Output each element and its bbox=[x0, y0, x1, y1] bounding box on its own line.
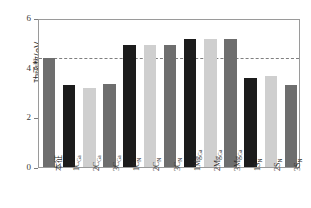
bar bbox=[184, 39, 196, 167]
bar bbox=[144, 45, 156, 167]
bar bbox=[204, 39, 216, 167]
bar bbox=[103, 84, 115, 167]
bar bbox=[244, 78, 256, 167]
bar bbox=[43, 58, 55, 167]
y-tick-label: 4 bbox=[27, 63, 32, 74]
y-tick: 4 bbox=[0, 69, 38, 70]
y-tick-label: 2 bbox=[27, 112, 32, 123]
y-tick-label: 0 bbox=[27, 162, 32, 173]
bar bbox=[63, 85, 75, 167]
bar bbox=[83, 88, 95, 167]
bar bbox=[164, 45, 176, 167]
bar bbox=[265, 76, 277, 167]
y-tick-label: 6 bbox=[27, 13, 32, 24]
chart-figure: 功函数/eV 0246 本征1CGa2CGa3CGa1CN2CN3CN1MgGa… bbox=[0, 0, 311, 208]
bar bbox=[224, 39, 236, 167]
bar bbox=[123, 45, 135, 167]
y-tick: 6 bbox=[0, 19, 38, 20]
bar bbox=[285, 85, 297, 167]
y-tick: 0 bbox=[0, 168, 38, 169]
plot-area bbox=[38, 19, 300, 168]
y-tick: 2 bbox=[0, 118, 38, 119]
bar-series bbox=[39, 20, 299, 167]
y-tick-mark bbox=[34, 168, 38, 169]
